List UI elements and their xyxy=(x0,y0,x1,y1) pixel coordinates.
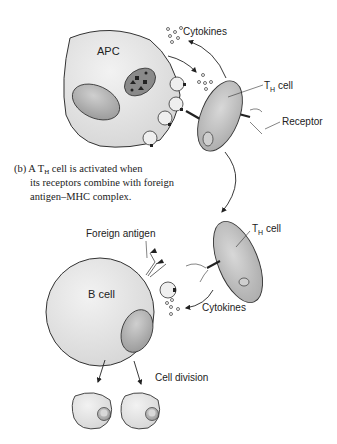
th-cell-label-top: TH cell xyxy=(264,80,293,93)
cytokine-arrow-up xyxy=(189,41,226,78)
b-cell-label: B cell xyxy=(88,288,115,300)
cytokines-label-bottom: Cytokines xyxy=(202,302,246,313)
diagram-canvas: APC Cytokines TH cell Receptor (b) A TH … xyxy=(0,0,337,444)
daughter-cell-right xyxy=(121,393,160,429)
cytokines-label-top: Cytokines xyxy=(183,26,227,37)
daughter-cell-left xyxy=(72,393,111,429)
foreign-antigen-label: Foreign antigen xyxy=(86,228,156,239)
caption: (b) A TH cell is activated when its rece… xyxy=(14,163,175,202)
svg-text:its receptors combine with for: its receptors combine with foreign xyxy=(30,177,175,188)
th-cell-top xyxy=(186,75,262,158)
th-cell-label-bottom: TH cell xyxy=(252,223,281,236)
receptor-label: Receptor xyxy=(282,116,323,127)
cell-division-label: Cell division xyxy=(155,372,208,383)
b-cell: B cell xyxy=(46,248,176,366)
svg-text:antigen–MHC complex.: antigen–MHC complex. xyxy=(30,191,131,202)
apc-cell: APC xyxy=(64,30,186,147)
activation-arrow xyxy=(222,152,236,212)
svg-text:(b) A TH cell is activated whe: (b) A TH cell is activated when xyxy=(14,163,143,176)
cytokines-dots-bottom xyxy=(166,299,180,316)
division-arrow-right xyxy=(134,361,141,384)
apc-label: APC xyxy=(97,45,120,57)
